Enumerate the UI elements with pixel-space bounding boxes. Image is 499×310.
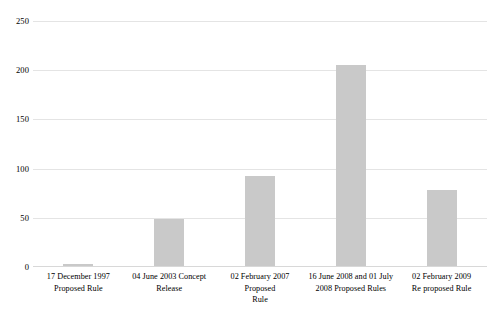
x-axis-label-line: 17 December 1997 — [35, 271, 122, 283]
x-axis-label-line: 04 June 2003 Concept — [126, 271, 213, 283]
x-axis-label-line: 16 June 2008 and 01 July — [307, 271, 394, 283]
bar-0[interactable] — [63, 264, 93, 266]
x-axis-label-2: 02 February 2007 Proposed Rule — [215, 271, 306, 305]
y-axis-tick-label: 200 — [0, 66, 29, 75]
x-axis-label-line: Re proposed Rule — [398, 283, 485, 295]
bars-layer — [33, 21, 487, 267]
y-axis-tick-label: 250 — [0, 17, 29, 26]
x-axis-label-line: Proposed Rule — [35, 283, 122, 295]
x-axis-label-0: 17 December 1997 Proposed Rule — [33, 271, 124, 305]
plot-area — [33, 21, 487, 267]
x-axis-category-labels: 17 December 1997 Proposed Rule 04 June 2… — [33, 271, 487, 305]
bar-3[interactable] — [336, 65, 366, 266]
x-axis-label-line: Release — [126, 283, 213, 295]
bar-chart: 250 200 150 100 50 0 17 December 1997 Pr… — [0, 0, 499, 310]
x-axis-label-line: 02 February 2009 — [398, 271, 485, 283]
y-axis-tick-label: 0 — [0, 263, 29, 272]
x-axis-label-3: 16 June 2008 and 01 July 2008 Proposed R… — [305, 271, 396, 305]
x-axis-label-line: 2008 Proposed Rules — [307, 283, 394, 295]
y-axis-tick-label: 100 — [0, 164, 29, 173]
bar-1[interactable] — [154, 219, 184, 266]
bar-2[interactable] — [245, 176, 275, 266]
x-axis-label-line: 02 February 2007 Proposed — [217, 271, 304, 294]
y-axis-tick-label: 150 — [0, 115, 29, 124]
x-axis-label-1: 04 June 2003 Concept Release — [124, 271, 215, 305]
bar-4[interactable] — [427, 190, 457, 266]
y-axis-tick-label: 50 — [0, 214, 29, 223]
x-axis-label-4: 02 February 2009 Re proposed Rule — [396, 271, 487, 305]
x-axis-label-line: Rule — [217, 294, 304, 306]
